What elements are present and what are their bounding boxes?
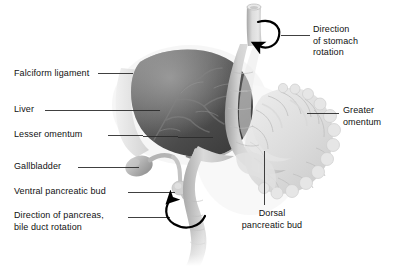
label-gallbladder: Gallbladder bbox=[14, 161, 61, 173]
label-dorsal-pancreatic-bud: Dorsal pancreatic bud bbox=[222, 208, 322, 231]
anatomy-figure: Falciform ligament Liver Lesser omentum … bbox=[0, 0, 399, 266]
label-greater-omentum: Greater omentum bbox=[343, 105, 381, 128]
greater-omentum-structure bbox=[244, 83, 340, 199]
label-direction-of-pancreas-bile-duct-rotation: Direction of pancreas, bile duct rotatio… bbox=[14, 210, 104, 233]
label-lesser-omentum: Lesser omentum bbox=[14, 129, 82, 141]
gallbladder-structure bbox=[123, 152, 173, 180]
label-direction-of-stomach-rotation: Direction of stomach rotation bbox=[313, 24, 358, 59]
esophagus-structure bbox=[247, 4, 262, 46]
label-falciform-ligament: Falciform ligament bbox=[14, 68, 89, 80]
label-liver: Liver bbox=[14, 104, 34, 116]
label-ventral-pancreatic-bud: Ventral pancreatic bud bbox=[14, 186, 106, 198]
